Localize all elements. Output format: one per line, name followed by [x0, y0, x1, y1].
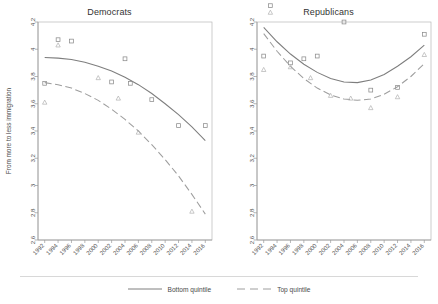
plot-republicans: 2.62.833.23.43.63.844.219921994199619982…: [219, 0, 438, 270]
panel-title: Republicans: [219, 7, 438, 17]
data-point-square: [177, 124, 181, 128]
legend-item-bottom-quintile: Bottom quintile: [128, 285, 212, 293]
panel-democrats: Democrats 2.62.833.23.43.63.844.21992199…: [0, 0, 219, 270]
y-tick-label: 2.6: [248, 235, 255, 244]
legend-label: Bottom quintile: [168, 286, 212, 293]
data-point-triangle: [395, 95, 399, 99]
x-tick-label: 2000: [85, 242, 99, 256]
y-axis-label: From more to less immigration: [5, 87, 13, 174]
x-tick-label: 1996: [58, 242, 72, 256]
y-tick-label: 3.8: [29, 72, 36, 81]
x-tick-label: 2012: [385, 242, 399, 256]
x-tick-label: 2000: [304, 242, 318, 256]
legend-label: Top quintile: [277, 286, 310, 293]
plot-frame: [38, 22, 212, 240]
fit-line-solid: [45, 57, 206, 140]
y-tick-label: 2.8: [29, 208, 36, 217]
data-point-triangle: [42, 100, 46, 104]
x-tick-label: 2014: [179, 242, 193, 256]
panels-row: Democrats 2.62.833.23.43.63.844.21992199…: [0, 0, 438, 270]
x-tick-label: 2004: [331, 242, 345, 256]
x-tick-label: 2012: [166, 242, 180, 256]
data-point-square: [128, 81, 132, 85]
data-point-triangle: [308, 76, 312, 80]
y-tick-label: 4.2: [248, 17, 255, 26]
fit-line-dashed: [45, 83, 206, 214]
y-tick-label: 4: [248, 47, 255, 51]
y-tick-label: 3.2: [248, 153, 255, 162]
legend-item-top-quintile: Top quintile: [237, 285, 310, 293]
data-point-square: [150, 98, 154, 102]
data-point-square: [262, 54, 266, 58]
y-tick-label: 3.2: [29, 153, 36, 162]
data-point-square: [56, 38, 60, 42]
x-tick-label: 1994: [45, 242, 59, 256]
plot-frame: [257, 22, 431, 240]
data-point-triangle: [348, 96, 352, 100]
x-tick-label: 2002: [99, 242, 113, 256]
x-tick-label: 2006: [125, 242, 139, 256]
y-tick-label: 4.2: [29, 17, 36, 26]
figure-container: Democrats 2.62.833.23.43.63.844.21992199…: [0, 0, 438, 304]
data-point-square: [123, 57, 127, 61]
x-tick-label: 2006: [344, 242, 358, 256]
y-tick-label: 3.6: [248, 99, 255, 108]
legend-key-solid-icon: [128, 285, 162, 293]
y-tick-label: 3: [248, 183, 255, 187]
y-tick-label: 4: [29, 47, 36, 51]
y-tick-label: 2.8: [248, 208, 255, 217]
y-tick-label: 3: [29, 183, 36, 187]
legend-inner: Bottom quintile Top quintile: [20, 276, 418, 301]
legend-key-dashed-icon: [237, 285, 271, 293]
data-point-triangle: [190, 209, 194, 213]
x-tick-label: 2016: [192, 242, 206, 256]
fit-line-solid: [264, 27, 425, 82]
x-tick-label: 1998: [72, 242, 86, 256]
data-point-square: [203, 124, 207, 128]
plot-democrats: 2.62.833.23.43.63.844.219921994199619982…: [0, 0, 219, 270]
figure-legend: Bottom quintile Top quintile: [0, 272, 438, 304]
x-tick-label: 1994: [264, 242, 278, 256]
data-point-square: [302, 57, 306, 61]
y-tick-label: 2.6: [29, 235, 36, 244]
data-point-square: [422, 32, 426, 36]
x-tick-label: 2002: [318, 242, 332, 256]
panel-title: Democrats: [0, 7, 219, 17]
x-tick-label: 2008: [139, 242, 153, 256]
x-tick-label: 2004: [112, 242, 126, 256]
x-tick-label: 2010: [152, 242, 166, 256]
x-tick-label: 2008: [358, 242, 372, 256]
y-tick-label: 3.4: [248, 126, 255, 135]
data-point-triangle: [96, 76, 100, 80]
data-point-square: [110, 80, 114, 84]
panel-republicans: Republicans 2.62.833.23.43.63.844.219921…: [219, 0, 438, 270]
data-point-square: [315, 54, 319, 58]
data-point-triangle: [56, 43, 60, 47]
data-point-triangle: [116, 96, 120, 100]
data-point-square: [70, 39, 74, 43]
data-point-triangle: [422, 52, 426, 56]
fit-line-dashed: [264, 34, 425, 101]
y-tick-label: 3.8: [248, 72, 255, 81]
x-tick-label: 1998: [291, 242, 305, 256]
data-point-triangle: [369, 106, 373, 110]
x-tick-label: 2010: [371, 242, 385, 256]
data-point-triangle: [261, 67, 265, 71]
x-tick-label: 2014: [398, 242, 412, 256]
x-tick-label: 2016: [411, 242, 425, 256]
y-tick-label: 3.4: [29, 126, 36, 135]
y-tick-label: 3.6: [29, 99, 36, 108]
data-point-square: [369, 88, 373, 92]
x-tick-label: 1996: [277, 242, 291, 256]
